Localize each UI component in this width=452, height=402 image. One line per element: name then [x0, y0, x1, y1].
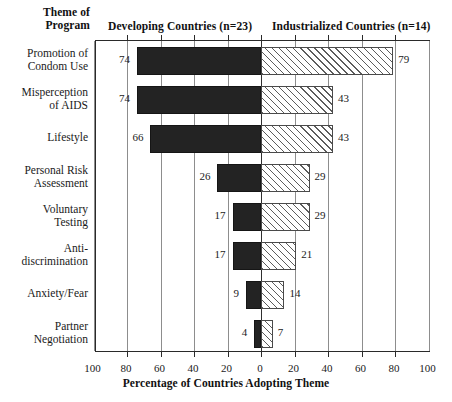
bar-industrialized [261, 86, 333, 114]
category-label-line: Anxiety/Fear [0, 287, 88, 300]
value-label-industrialized: 29 [315, 210, 326, 221]
value-label-industrialized: 43 [338, 93, 349, 104]
bar-developing [254, 320, 261, 348]
x-tick-mark-top [127, 35, 128, 41]
x-tick-mark-top [295, 35, 296, 41]
category-label-line: Condom Use [0, 60, 88, 73]
bar-industrialized [261, 203, 310, 231]
bar-developing [150, 125, 261, 153]
value-label-developing: 17 [198, 210, 226, 221]
value-label-developing: 4 [219, 327, 247, 338]
category-label-line: Personal Risk [0, 164, 88, 177]
theme-heading-line2: Program [2, 19, 90, 32]
bar-industrialized [261, 242, 296, 270]
category-label-line: Promotion of [0, 47, 88, 60]
bar-row [96, 125, 429, 153]
bar-developing [137, 47, 261, 75]
bar-row [96, 281, 429, 309]
bar-row [96, 164, 429, 192]
category-label: PartnerNegotiation [0, 320, 88, 345]
x-tick-mark-bottom [295, 351, 296, 357]
bar-developing [217, 164, 261, 192]
x-tick-mark-top [395, 35, 396, 41]
category-label-line: Negotiation [0, 333, 88, 346]
category-label: Promotion ofCondom Use [0, 47, 88, 72]
bar-row [96, 242, 429, 270]
legend-industrialized-countries: Industrialized Countries (n=14) [272, 20, 431, 32]
x-tick-mark-bottom [194, 351, 195, 357]
category-label-line: of AIDS [0, 99, 88, 112]
legend-developing-countries: Developing Countries (n=23) [108, 20, 252, 32]
value-label-developing: 17 [198, 249, 226, 260]
category-label-line: Anti- [0, 242, 88, 255]
x-tick-mark-top [362, 35, 363, 41]
value-label-industrialized: 14 [289, 288, 300, 299]
bar-developing [246, 281, 261, 309]
x-tick-mark-top [228, 35, 229, 41]
category-label-line: Misperception [0, 86, 88, 99]
value-label-developing: 66 [115, 132, 143, 143]
category-label-line: Assessment [0, 177, 88, 190]
category-label: Personal RiskAssessment [0, 164, 88, 189]
x-tick-mark-bottom [395, 351, 396, 357]
category-label-line: Lifestyle [0, 131, 88, 144]
value-label-industrialized: 29 [315, 171, 326, 182]
value-label-industrialized: 7 [278, 327, 284, 338]
category-label: VoluntaryTesting [0, 203, 88, 228]
x-tick-mark-bottom [228, 351, 229, 357]
category-label-line: Voluntary [0, 203, 88, 216]
bar-row [96, 86, 429, 114]
category-label: Anxiety/Fear [0, 287, 88, 300]
bar-developing [137, 86, 261, 114]
bar-row [96, 320, 429, 348]
x-tick-mark-top [261, 35, 262, 41]
bar-industrialized [261, 125, 333, 153]
x-tick-mark-bottom [328, 351, 329, 357]
bar-industrialized [261, 47, 393, 75]
bar-industrialized [261, 281, 284, 309]
bar-industrialized [261, 320, 273, 348]
bar-developing [233, 203, 261, 231]
x-tick-mark-top [161, 35, 162, 41]
bar-chart: Theme of Program Developing Countries (n… [0, 0, 452, 402]
x-tick-mark-bottom [127, 351, 128, 357]
category-label-line: Partner [0, 320, 88, 333]
gridline [94, 41, 95, 351]
value-label-industrialized: 21 [301, 249, 312, 260]
x-tick-mark-top [194, 35, 195, 41]
category-label-line: discrimination [0, 255, 88, 268]
value-label-developing: 74 [102, 93, 130, 104]
x-tick-label: 100 [408, 362, 448, 374]
category-label: Anti-discrimination [0, 242, 88, 267]
x-tick-mark-bottom [261, 351, 262, 357]
value-label-industrialized: 79 [398, 54, 409, 65]
bar-row [96, 203, 429, 231]
theme-heading-line1: Theme of [2, 6, 90, 19]
value-label-industrialized: 43 [338, 132, 349, 143]
bar-industrialized [261, 164, 310, 192]
x-tick-mark-bottom [161, 351, 162, 357]
x-tick-mark-bottom [362, 351, 363, 357]
plot-inner [96, 41, 429, 351]
category-label-line: Testing [0, 216, 88, 229]
bar-developing [233, 242, 261, 270]
value-label-developing: 74 [102, 54, 130, 65]
theme-column-heading: Theme of Program [2, 6, 90, 32]
plot-area [95, 40, 430, 352]
category-label: Lifestyle [0, 131, 88, 144]
x-axis-title: Percentage of Countries Adopting Theme [0, 377, 452, 389]
bar-row [96, 47, 429, 75]
x-tick-mark-top [328, 35, 329, 41]
category-label: Misperceptionof AIDS [0, 86, 88, 111]
value-label-developing: 26 [182, 171, 210, 182]
value-label-developing: 9 [211, 288, 239, 299]
